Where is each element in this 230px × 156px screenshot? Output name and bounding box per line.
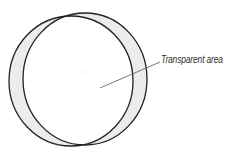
center-dot: [82, 71, 83, 72]
overlapping-circles-diagram: [0, 0, 230, 156]
transparent-area-label: Transparent area: [161, 54, 223, 65]
